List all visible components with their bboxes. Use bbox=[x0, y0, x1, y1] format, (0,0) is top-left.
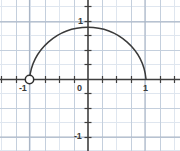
graph-figure: -1 0 1 1 -1 bbox=[0, 0, 180, 151]
coordinate-plot bbox=[0, 0, 180, 151]
x-tick-label-neg1: -1 bbox=[19, 84, 27, 93]
y-axis bbox=[85, 0, 92, 151]
y-tick-label-pos1: 1 bbox=[78, 17, 83, 26]
x-tick-label-zero: 0 bbox=[77, 84, 82, 93]
y-tick-label-neg1: -1 bbox=[74, 132, 82, 141]
x-tick-label-pos1: 1 bbox=[143, 84, 148, 93]
